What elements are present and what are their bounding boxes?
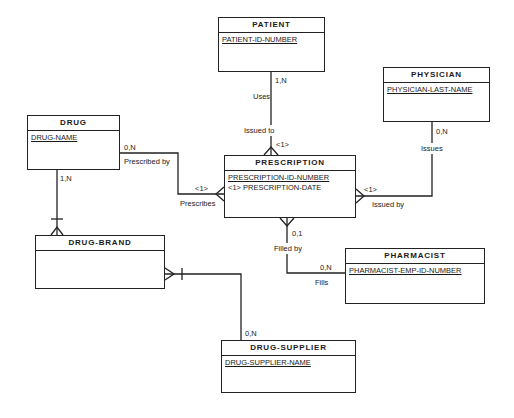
entity-title: DRUG-BRAND: [36, 236, 164, 251]
entity-title: DRUG-SUPPLIER: [222, 341, 355, 356]
cardinality-label: 0,N: [436, 127, 448, 136]
attribute: PHYSICIAN-LAST-NAME: [387, 85, 486, 95]
cardinality-label: <1>: [364, 185, 377, 194]
role-label: Prescribed by: [124, 157, 170, 166]
attribute: DRUG-NAME: [31, 133, 116, 143]
entity-drug-supplier[interactable]: DRUG-SUPPLIER DRUG-SUPPLIER-NAME: [221, 340, 356, 393]
cardinality-label: 0,N: [124, 143, 136, 152]
attribute: PRESCRIPTION-ID-NUMBER: [228, 173, 352, 183]
er-diagram: PATIENT PATIENT-ID-NUMBER PHYSICIAN PHYS…: [0, 0, 514, 418]
attribute: PATIENT-ID-NUMBER: [222, 35, 321, 45]
cardinality-label: 0,N: [320, 263, 332, 272]
attribute: DRUG-SUPPLIER-NAME: [225, 358, 352, 368]
cardinality-label: 1,N: [275, 76, 287, 85]
role-label: Issues: [421, 143, 443, 154]
entity-drug-brand[interactable]: DRUG-BRAND: [35, 235, 165, 289]
entity-title: PHYSICIAN: [384, 68, 489, 83]
role-label: Prescribes: [180, 199, 215, 208]
attribute: <1> PRESCRIPTION-DATE: [228, 183, 352, 193]
entity-patient[interactable]: PATIENT PATIENT-ID-NUMBER: [218, 17, 325, 72]
role-label: Filled by: [274, 243, 302, 254]
cardinality-label: <1>: [276, 140, 289, 149]
entity-title: PRESCRIPTION: [225, 156, 355, 171]
entity-title: PATIENT: [219, 18, 324, 33]
entity-pharmacist[interactable]: PHARMACIST PHARMACIST-EMP-ID-NUMBER: [345, 248, 485, 304]
role-label: Issued by: [372, 200, 404, 209]
cardinality-label: 1,N: [60, 174, 72, 183]
cardinality-label: <1>: [195, 184, 208, 193]
entity-title: DRUG: [28, 116, 119, 131]
entity-physician[interactable]: PHYSICIAN PHYSICIAN-LAST-NAME: [383, 67, 490, 122]
role-label: Issued to: [244, 125, 274, 136]
cardinality-label: 0,1: [292, 229, 302, 238]
entity-title: PHARMACIST: [346, 249, 484, 264]
link-drugbrand-supplier: [165, 274, 241, 340]
cardinality-label: 0,N: [245, 329, 257, 338]
entity-drug[interactable]: DRUG DRUG-NAME: [27, 115, 120, 170]
entity-prescription[interactable]: PRESCRIPTION PRESCRIPTION-ID-NUMBER <1> …: [224, 155, 356, 218]
role-label: Uses: [253, 91, 270, 102]
attribute: PHARMACIST-EMP-ID-NUMBER: [349, 266, 481, 276]
role-label: Fills: [315, 278, 328, 287]
